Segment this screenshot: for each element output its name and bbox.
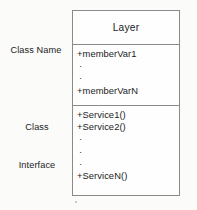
- operation-item: +ServiceN(): [77, 170, 179, 182]
- operation-ellipsis-dot: [77, 133, 179, 145]
- attribute-item: +memberVar1: [77, 48, 179, 60]
- class-title: Layer: [113, 22, 139, 33]
- attribute-ellipsis-dot: [77, 60, 179, 72]
- operation-ellipsis-dot: [77, 158, 179, 170]
- annotation-class-interface-line-1: Class: [8, 121, 66, 134]
- operation-ellipsis-dot: [77, 146, 179, 158]
- uml-class-box: Layer +memberVar1 +memberVarN +Service1(…: [72, 10, 180, 196]
- class-operations-compartment: +Service1() +Service2() +ServiceN(): [73, 106, 179, 195]
- class-attributes-compartment: +memberVar1 +memberVarN: [73, 45, 179, 106]
- annotation-class-name-line-1: Class Name: [4, 44, 68, 57]
- attribute-item: +memberVarN: [77, 85, 179, 97]
- class-name-compartment: Layer: [73, 11, 179, 45]
- diagram-canvas: Class Name Class Interface Layer +member…: [0, 0, 197, 210]
- attribute-ellipsis-dot: [77, 72, 179, 84]
- scan-artifact-speck: [75, 201, 77, 203]
- annotation-class-interface-line-2: Interface: [8, 159, 66, 172]
- operation-item: +Service2(): [77, 121, 179, 133]
- operation-item: +Service1(): [77, 109, 179, 121]
- annotation-class-interface: Class Interface: [8, 96, 66, 196]
- annotation-class-name: Class Name: [4, 19, 68, 82]
